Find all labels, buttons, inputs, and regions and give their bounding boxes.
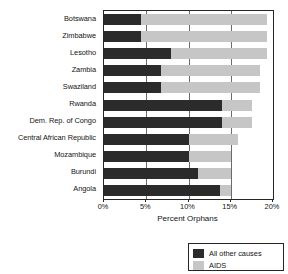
bar-segment-aids	[222, 117, 252, 128]
category-label: Central African Republic	[18, 132, 96, 144]
bar-segment-all-other-causes	[104, 48, 171, 59]
bar-segment-aids	[220, 185, 231, 196]
bar-segment-all-other-causes	[104, 82, 161, 93]
bar-segment-aids	[171, 48, 267, 59]
plot-inner	[104, 11, 273, 199]
legend-swatch	[193, 249, 204, 258]
category-label: Zimbabwe	[62, 30, 96, 42]
bar-segment-aids	[141, 14, 267, 25]
bar-row	[104, 82, 273, 93]
legend-item: AIDS	[193, 260, 226, 271]
bar-segment-all-other-causes	[104, 117, 222, 128]
category-label: Dem. Rep. of Congo	[30, 115, 96, 127]
category-label: Rwanda	[69, 98, 96, 110]
category-label: Mozambique	[54, 149, 96, 161]
category-axis: BotswanaZimbabweLesothoZambiaSwazilandRw…	[0, 10, 100, 198]
bar-segment-aids	[222, 100, 252, 111]
category-label: Lesotho	[70, 47, 96, 59]
category-label: Burundi	[71, 166, 96, 178]
legend-swatch	[193, 261, 204, 270]
category-label: Swaziland	[63, 81, 96, 93]
category-label: Botswana	[64, 13, 96, 25]
plot-area	[103, 10, 274, 200]
bar-row	[104, 168, 273, 179]
chart-legend: All other causesAIDS	[188, 243, 284, 271]
bar-segment-all-other-causes	[104, 134, 189, 145]
bar-segment-aids	[198, 168, 231, 179]
bar-segment-all-other-causes	[104, 65, 161, 76]
bar-segment-aids	[189, 151, 231, 162]
bar-row	[104, 185, 273, 196]
bar-segment-aids	[189, 134, 238, 145]
legend-item: All other causes	[193, 248, 262, 259]
bar-segment-aids	[141, 31, 267, 42]
legend-label: All other causes	[209, 249, 262, 258]
bar-row	[104, 31, 273, 42]
x-tick-label: 5%	[140, 202, 151, 212]
bar-row	[104, 117, 273, 128]
bar-segment-all-other-causes	[104, 14, 141, 25]
bar-row	[104, 151, 273, 162]
x-tick-label: 10%	[180, 202, 195, 212]
bar-segment-aids	[161, 82, 261, 93]
bar-segment-all-other-causes	[104, 31, 141, 42]
x-tick-label: 15%	[222, 202, 237, 212]
bar-segment-all-other-causes	[104, 151, 189, 162]
bar-row	[104, 14, 273, 25]
x-axis-label: Percent Orphans	[103, 214, 272, 223]
bar-row	[104, 65, 273, 76]
bar-segment-all-other-causes	[104, 168, 198, 179]
bar-row	[104, 100, 273, 111]
stacked-bar-chart: BotswanaZimbabweLesothoZambiaSwazilandRw…	[0, 0, 288, 274]
x-tick-label: 20%	[265, 202, 280, 212]
bar-segment-aids	[161, 65, 261, 76]
category-label: Zambia	[72, 64, 96, 76]
category-label: Angola	[73, 183, 96, 195]
legend-label: AIDS	[209, 261, 226, 270]
bar-row	[104, 48, 273, 59]
bar-segment-all-other-causes	[104, 100, 222, 111]
x-tick-label: 0%	[98, 202, 109, 212]
bar-segment-all-other-causes	[104, 185, 220, 196]
bar-row	[104, 134, 273, 145]
